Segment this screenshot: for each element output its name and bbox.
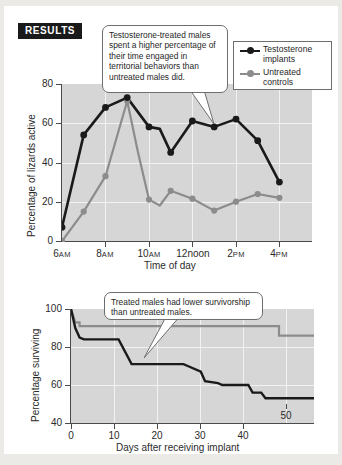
x-axis-title-bottom: Days after receiving implant bbox=[116, 442, 239, 453]
x-ticklabel-12noon: 12noon bbox=[168, 248, 218, 259]
legend-label-untreated-l2: controls bbox=[263, 77, 293, 87]
datapoint-testosterone bbox=[167, 149, 174, 156]
callout-top: Testosterone-treated males spent a highe… bbox=[102, 25, 228, 93]
x-tick-40-bottom bbox=[243, 424, 244, 429]
x-ticklabel-10-bottom: 10 bbox=[99, 430, 129, 441]
x-ticklabel-12noon-suffix: noon bbox=[187, 248, 209, 259]
legend-label-testosterone-l1: Testosterone bbox=[263, 44, 312, 54]
datapoint-untreated bbox=[102, 173, 108, 179]
datapoint-testosterone bbox=[124, 94, 131, 101]
datapoint-untreated bbox=[81, 209, 87, 215]
x-ticklabel-2pm-suffix: PM bbox=[233, 250, 245, 259]
series-line-testosterone-survivorship bbox=[71, 309, 314, 398]
callout-bottom: Treated males had lower survivorship tha… bbox=[104, 292, 263, 320]
x-ticklabel-4pm-suffix: PM bbox=[276, 250, 288, 259]
datapoint-untreated bbox=[168, 188, 174, 194]
datapoint-testosterone bbox=[276, 179, 283, 186]
legend-label-testosterone-l2: implants bbox=[263, 54, 295, 64]
survivorship-chart: 100 80 60 40 0 10 20 30 40 50 Days after… bbox=[4, 291, 338, 451]
y-ticklabel-100: 100 bbox=[34, 303, 62, 314]
x-ticklabel-6am: 6AM bbox=[42, 248, 82, 259]
datapoint-untreated bbox=[189, 196, 195, 202]
legend-item-untreated: Untreated controls bbox=[238, 69, 331, 91]
x-tick-10-bottom bbox=[114, 424, 115, 429]
x-ticklabel-0-bottom: 0 bbox=[56, 430, 86, 441]
x-tick-2pm bbox=[236, 242, 237, 247]
lizard-activity-chart: 80 60 40 20 0 6AM 8AM 10AM 12noon 2PM 4P… bbox=[4, 6, 338, 264]
x-tick-30-bottom bbox=[200, 424, 201, 429]
series-line-testosterone-implants bbox=[62, 98, 279, 228]
datapoint-testosterone bbox=[146, 124, 153, 131]
x-tick-12noon bbox=[192, 242, 193, 247]
x-ticklabel-20-bottom: 20 bbox=[142, 430, 172, 441]
datapoint-testosterone bbox=[80, 132, 87, 139]
x-axis-title-top: Time of day bbox=[144, 260, 196, 271]
x-ticklabel-8am-suffix: AM bbox=[102, 250, 114, 259]
datapoint-untreated bbox=[211, 208, 217, 214]
series-lines-top bbox=[62, 84, 312, 242]
y-ticklabel-80: 80 bbox=[30, 78, 53, 89]
x-ticklabel-12noon-value: 12 bbox=[176, 248, 187, 259]
legend-marker-testosterone bbox=[247, 47, 254, 54]
callout-leader-bottom bbox=[144, 315, 186, 360]
legend-item-testosterone: Testosterone implants bbox=[238, 46, 331, 68]
callout-leader-top bbox=[190, 90, 230, 126]
x-tick-20-bottom bbox=[157, 424, 158, 429]
legend-label-untreated-l1: Untreated bbox=[263, 67, 301, 77]
x-ticklabel-10am-value: 10 bbox=[138, 248, 149, 259]
x-tick-8am bbox=[105, 242, 106, 247]
x-tick-0-bottom bbox=[71, 424, 72, 429]
y-axis-title-bottom: Percentage surviving bbox=[30, 329, 41, 422]
datapoint-testosterone bbox=[62, 224, 65, 231]
y-axis-title-top: Percentage of lizards active bbox=[26, 114, 37, 237]
x-ticklabel-10am: 10AM bbox=[129, 248, 169, 259]
x-ticklabel-10am-suffix: AM bbox=[149, 250, 161, 259]
x-ticklabel-6am-suffix: AM bbox=[59, 250, 71, 259]
datapoint-testosterone bbox=[233, 116, 240, 123]
legend-label-untreated: Untreated controls bbox=[263, 67, 301, 87]
chart-legend: Testosterone implants Untreated controls bbox=[233, 41, 332, 90]
x-ticklabel-4pm: 4PM bbox=[259, 248, 299, 259]
series-lines-bottom bbox=[71, 309, 314, 424]
figure-page: RESULTS 80 60 40 20 0 bbox=[4, 6, 338, 454]
datapoint-untreated bbox=[255, 191, 261, 197]
legend-marker-untreated bbox=[247, 70, 254, 77]
x-ticklabel-40-bottom: 40 bbox=[228, 430, 258, 441]
x-tick-4pm bbox=[279, 242, 280, 247]
datapoint-untreated bbox=[233, 199, 239, 205]
datapoint-untreated bbox=[276, 195, 282, 201]
x-ticklabel-30-bottom: 30 bbox=[185, 430, 215, 441]
datapoint-untreated bbox=[146, 197, 152, 203]
x-tick-10am bbox=[149, 242, 150, 247]
legend-label-testosterone: Testosterone implants bbox=[263, 44, 312, 64]
datapoint-testosterone bbox=[254, 137, 261, 144]
x-ticklabel-2pm: 2PM bbox=[216, 248, 256, 259]
x-ticklabel-8am: 8AM bbox=[85, 248, 125, 259]
datapoint-testosterone bbox=[102, 104, 109, 111]
